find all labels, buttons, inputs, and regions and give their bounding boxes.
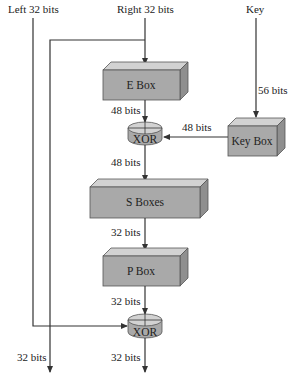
key-box-label: Key Box [231, 135, 272, 148]
left-output-bits-label: 32 bits [17, 351, 47, 363]
sboxes-pbox-bits-label: 32 bits [111, 226, 141, 238]
xor-top-label: XOR [133, 133, 158, 145]
p-box: P Box [103, 248, 188, 286]
pbox-xor-bits-label: 32 bits [111, 295, 141, 307]
right-input-label: Right 32 bits [117, 3, 174, 15]
xor-bottom-label: XOR [133, 326, 158, 338]
s-boxes: S Boxes [90, 179, 208, 218]
ebox-xor-bits-label: 48 bits [111, 104, 141, 116]
key-bits-label: 56 bits [258, 84, 288, 96]
left-input-label: Left 32 bits [8, 3, 59, 15]
e-box: E Box [103, 62, 188, 100]
keybox-xor-bits-label: 48 bits [182, 121, 212, 133]
xor-sboxes-bits-label: 48 bits [111, 156, 141, 168]
des-round-diagram: Left 32 bits Right 32 bits Key 56 bits E… [0, 0, 291, 380]
xor-top: XOR [128, 122, 162, 145]
xor-bottom: XOR [128, 314, 162, 338]
key-box: Key Box [228, 118, 285, 156]
e-box-label: E Box [126, 79, 155, 91]
s-boxes-label: S Boxes [126, 196, 165, 208]
p-box-label: P Box [127, 265, 155, 277]
key-input-label: Key [246, 3, 265, 15]
right-output-bits-label: 32 bits [111, 351, 141, 363]
